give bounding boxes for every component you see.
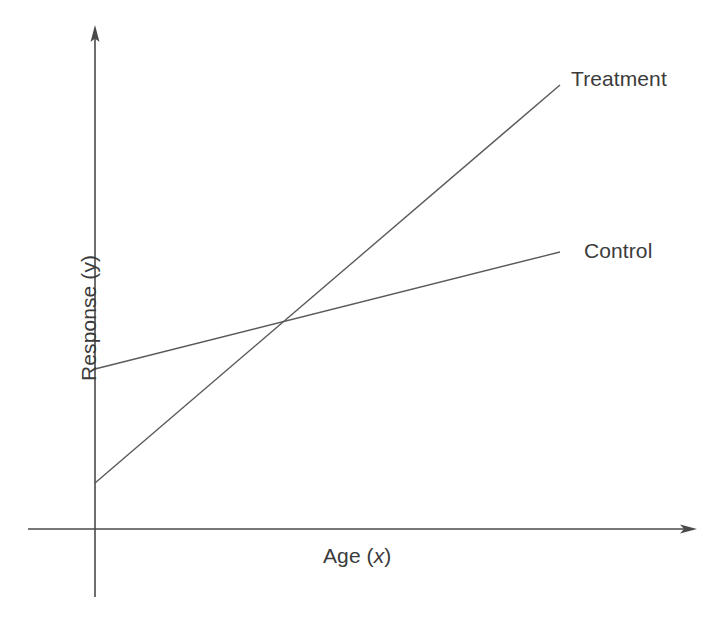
chart-plot-svg (0, 0, 713, 617)
x-axis-label: Age (x) (323, 545, 391, 566)
x-axis-label-variable: x (374, 544, 385, 567)
y-axis-label-variable: y (77, 262, 100, 273)
y-axis-label-prefix: Response ( (77, 273, 100, 381)
x-axis-label-prefix: Age ( (323, 544, 374, 567)
y-axis-label: Response (y) (78, 255, 99, 381)
control-series-label: Control (584, 240, 652, 261)
treatment-line (95, 85, 560, 483)
control-line (95, 252, 560, 369)
chart-figure: Treatment Control Age (x) Response (y) (0, 0, 713, 617)
treatment-series-label: Treatment (571, 68, 667, 89)
y-axis-label-suffix: ) (77, 255, 100, 262)
x-axis-label-suffix: ) (384, 544, 391, 567)
